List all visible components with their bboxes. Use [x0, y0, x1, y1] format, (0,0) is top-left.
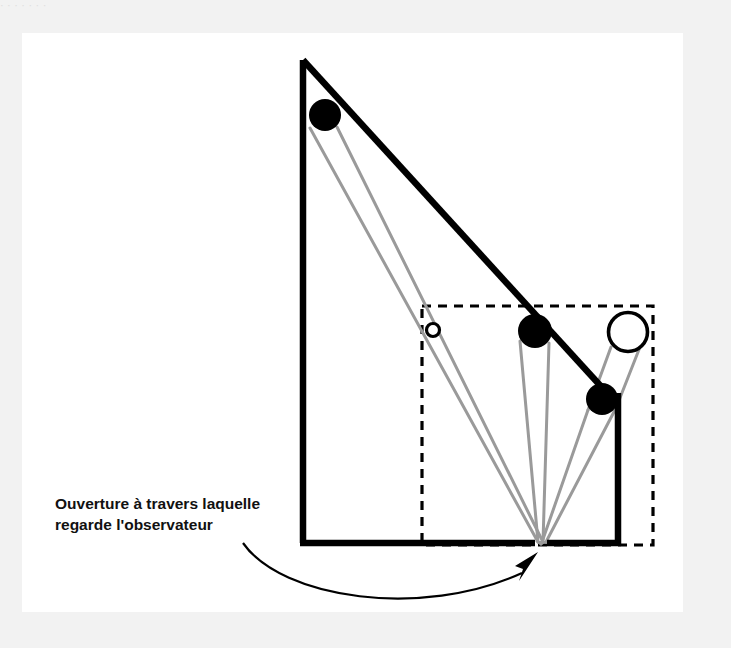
ray-mid-right: [543, 343, 549, 542]
near-object-middle-dot: [518, 314, 552, 348]
projected-image-large-circle: [609, 313, 648, 352]
ray-bundle: [310, 127, 640, 542]
far-object-large-dot: [309, 99, 341, 131]
page-top-text-sliver: · · · · · · ·: [0, 0, 731, 14]
near-object-lower-dot: [586, 383, 618, 415]
outline-hypotenuse: [303, 60, 618, 405]
annotation-arrow-curve: [243, 543, 522, 598]
caption-line-1: Ouverture à travers laquelle: [55, 495, 260, 512]
annotation-arrow: [243, 543, 538, 598]
caption-line-2: regarde l'observateur: [55, 516, 213, 533]
image-point-small-circle: [427, 324, 440, 337]
figure-page: · · · · · · ·: [0, 0, 731, 648]
optics-aperture-diagram: Ouverture à travers laquelle regarde l'o…: [22, 33, 683, 612]
figure-panel: Ouverture à travers laquelle regarde l'o…: [22, 33, 683, 612]
solid-outline: [300, 60, 621, 546]
annotation-arrow-head: [515, 552, 538, 581]
ray-far-right: [337, 127, 543, 542]
